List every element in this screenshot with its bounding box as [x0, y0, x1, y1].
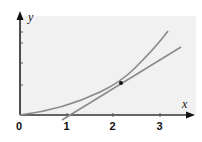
x-axis-label: x	[181, 97, 188, 111]
x-tick-label-1: 1	[64, 120, 70, 132]
graph-panel: y x 0 1 2 3	[0, 0, 202, 142]
tangent-point	[119, 81, 123, 85]
x-tick-label-3: 3	[157, 120, 163, 132]
plot-background	[20, 16, 196, 115]
x-tick-label-0: 0	[16, 120, 22, 132]
x-tick-label-2: 2	[110, 120, 116, 132]
y-axis-arrow-icon	[17, 11, 24, 20]
y-axis-label: y	[27, 10, 34, 24]
graph-svg: y x 0 1 2 3	[0, 0, 202, 142]
